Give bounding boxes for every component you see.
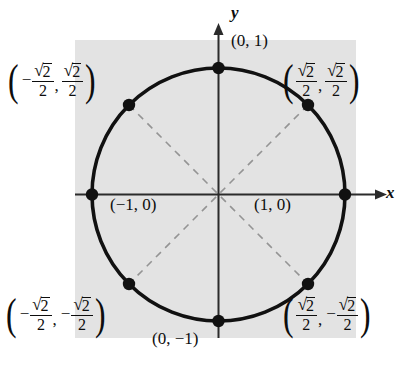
y-axis-label: y: [231, 4, 239, 21]
radical-x: √ 2: [34, 62, 51, 80]
minus-sign-y: −: [325, 305, 337, 322]
fraction-x: √ 2 2: [296, 62, 317, 99]
point-label-right: (1, 0): [254, 196, 291, 213]
minus-sign-x: −: [21, 71, 33, 88]
fraction-numerator: √ 2: [30, 296, 51, 315]
close-paren: ): [360, 299, 371, 332]
fraction-denominator: 2: [342, 316, 354, 333]
radicand: 2: [82, 297, 91, 314]
open-paren: (: [6, 299, 17, 332]
fraction-denominator: 2: [35, 316, 47, 333]
comma-separator: ,: [317, 311, 325, 328]
radicand: 2: [43, 63, 52, 80]
radicand: 2: [72, 63, 81, 80]
fraction-numerator: √ 2: [325, 62, 346, 81]
radicand: 2: [306, 63, 315, 80]
point-s2-ns2: [302, 278, 314, 290]
point-label-bottom: (0, −1): [152, 330, 198, 347]
radical-sign: √: [64, 62, 72, 79]
comma-separator: ,: [317, 77, 325, 94]
point-n1-0: [86, 188, 98, 200]
math-expression: ( √ 2 2 , − √ 2: [281, 296, 373, 333]
math-expression: ( − √ 2 2 , − √ 2: [4, 296, 107, 333]
fraction-numerator: √ 2: [296, 296, 317, 315]
math-expression: ( √ 2 2 , √ 2: [281, 62, 361, 99]
fraction-numerator: √ 2: [71, 296, 92, 315]
fraction-x: √ 2 2: [32, 62, 53, 99]
open-paren: (: [8, 65, 19, 98]
close-paren: ): [349, 65, 360, 98]
radical-x: √ 2: [298, 296, 315, 314]
radical-sign: √: [34, 62, 42, 79]
fraction-denominator: 2: [300, 316, 312, 333]
fraction-x: √ 2 2: [30, 296, 51, 333]
point-ns2-ns2: [123, 278, 135, 290]
radical-sign: √: [327, 62, 335, 79]
fraction-numerator: √ 2: [32, 62, 53, 81]
x-axis-label: x: [386, 184, 395, 201]
radicand: 2: [306, 297, 315, 314]
close-paren: ): [85, 65, 96, 98]
radicand: 2: [336, 63, 345, 80]
unit-circle-figure: y x (0, 1) (0, −1) (1, 0) (−1, 0) ( − √ …: [0, 0, 413, 368]
point-label-top: (0, 1): [231, 32, 268, 49]
close-paren: ): [95, 299, 106, 332]
radical-x: √ 2: [298, 62, 315, 80]
radical-y: √ 2: [64, 62, 81, 80]
fraction-denominator: 2: [37, 82, 49, 99]
radical-y: √ 2: [339, 296, 356, 314]
point-0-n1: [212, 315, 224, 327]
math-expression: ( − √ 2 2 , √ 2: [6, 62, 98, 99]
fraction-numerator: √ 2: [62, 62, 83, 81]
fraction-denominator: 2: [67, 82, 79, 99]
comma-separator: ,: [54, 77, 62, 94]
point-label-bottom-right: ( √ 2 2 , − √ 2: [281, 296, 373, 333]
minus-sign-x: −: [19, 305, 31, 322]
fraction-numerator: √ 2: [337, 296, 358, 315]
radicand: 2: [347, 297, 356, 314]
y-axis-arrowhead: [214, 23, 224, 35]
fraction-denominator: 2: [300, 82, 312, 99]
radicand: 2: [41, 297, 50, 314]
radical-sign: √: [339, 296, 347, 313]
fraction-denominator: 2: [76, 316, 88, 333]
fraction-denominator: 2: [330, 82, 342, 99]
fraction-y: √ 2 2: [71, 296, 92, 333]
radical-y: √ 2: [327, 62, 344, 80]
comma-separator: ,: [52, 311, 60, 328]
point-ns2-s2: [123, 99, 135, 111]
point-label-left: (−1, 0): [110, 196, 156, 213]
fraction-numerator: √ 2: [296, 62, 317, 81]
fraction-x: √ 2 2: [296, 296, 317, 333]
point-label-top-right: ( √ 2 2 , √ 2: [281, 62, 361, 99]
open-paren: (: [283, 299, 294, 332]
point-label-bottom-left: ( − √ 2 2 , − √ 2: [4, 296, 107, 333]
fraction-y: √ 2 2: [325, 62, 346, 99]
radical-y: √ 2: [73, 296, 90, 314]
radical-sign: √: [298, 62, 306, 79]
fraction-y: √ 2 2: [337, 296, 358, 333]
point-s2-s2: [302, 99, 314, 111]
point-1-0: [339, 188, 351, 200]
open-paren: (: [283, 65, 294, 98]
fraction-y: √ 2 2: [62, 62, 83, 99]
point-0-1: [212, 62, 224, 74]
radical-sign: √: [298, 296, 306, 313]
point-label-top-left: ( − √ 2 2 , √ 2: [6, 62, 98, 99]
radical-sign: √: [73, 296, 81, 313]
minus-sign-y: −: [60, 305, 72, 322]
radical-x: √ 2: [32, 296, 49, 314]
radical-sign: √: [32, 296, 40, 313]
